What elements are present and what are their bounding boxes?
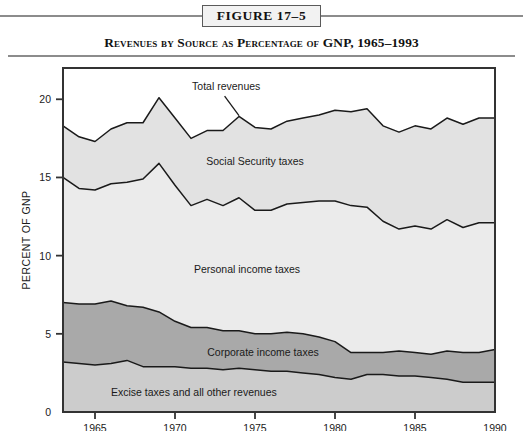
x-tick-label-1985: 1985 — [403, 422, 427, 431]
y-tick-label-10: 10 — [39, 250, 51, 262]
y-tick-label-5: 5 — [45, 328, 51, 340]
annotation-social-security-taxes: Social Security taxes — [206, 155, 303, 167]
chart-container: 05101520196519701975198019851990PERCENT … — [0, 0, 523, 431]
annotation-personal-income-taxes: Personal income taxes — [194, 263, 300, 275]
stacked-area-chart: 05101520196519701975198019851990PERCENT … — [0, 0, 523, 431]
y-tick-label-15: 15 — [39, 171, 51, 183]
x-tick-label-1970: 1970 — [163, 422, 187, 431]
annotation-excise-taxes-and-all-other-revenues: Excise taxes and all other revenues — [111, 386, 277, 398]
y-tick-label-0: 0 — [45, 406, 51, 418]
x-tick-label-1980: 1980 — [323, 422, 347, 431]
y-axis-title: PERCENT OF GNP — [20, 191, 32, 290]
y-tick-label-20: 20 — [39, 93, 51, 105]
x-tick-label-1965: 1965 — [83, 422, 107, 431]
x-tick-label-1975: 1975 — [243, 422, 267, 431]
x-tick-label-1990: 1990 — [483, 422, 507, 431]
annotation-corporate-income-taxes: Corporate income taxes — [207, 346, 318, 358]
total-revenues-leader-line — [225, 96, 239, 116]
annotation-total-revenues: Total revenues — [192, 80, 260, 92]
